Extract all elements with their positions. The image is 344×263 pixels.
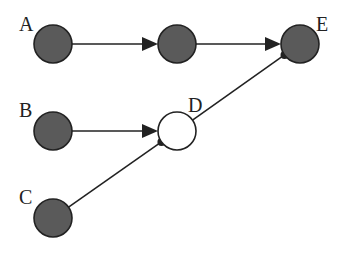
node-b: [34, 112, 72, 150]
edge-m-e: [196, 37, 281, 51]
node-a: [34, 25, 72, 63]
edge-c-d: [69, 138, 166, 207]
node-label-d: D: [188, 94, 202, 116]
node-m: [158, 25, 196, 63]
arrowhead-icon: [142, 124, 158, 138]
node-label-e: E: [316, 13, 328, 35]
arrowhead-icon: [265, 37, 281, 51]
node-d: [158, 112, 196, 150]
node-label-b: B: [19, 99, 32, 121]
edge-b-d: [72, 124, 158, 138]
node-e: [281, 25, 319, 63]
node-c: [34, 199, 72, 237]
edge-a-m: [72, 37, 158, 51]
node-label-c: C: [19, 186, 32, 208]
edge-d-e: [193, 51, 289, 120]
arrowhead-icon: [142, 37, 158, 51]
diagram-canvas: AEBDC: [0, 0, 344, 263]
node-label-a: A: [19, 13, 34, 35]
